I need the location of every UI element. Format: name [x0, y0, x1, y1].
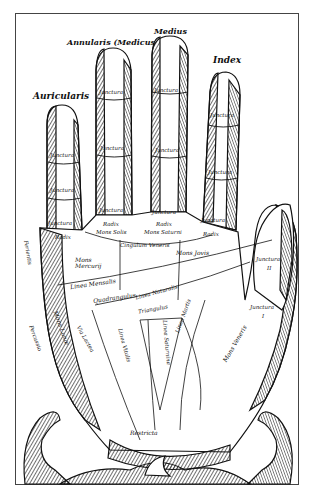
joint-index-1: Junctura	[201, 218, 225, 224]
finger-index	[203, 72, 240, 230]
joint-index-3: Junctura	[210, 113, 234, 119]
radix-middle: Radix	[156, 222, 172, 228]
joint-ring-3: Junctura	[99, 90, 123, 96]
joint-thumb-2-num: II	[267, 266, 271, 272]
radix-little: Radix	[55, 235, 71, 241]
label-restricta: Restricta	[130, 430, 158, 436]
finger-little	[47, 105, 82, 230]
joint-thumb-1-num: I	[262, 314, 264, 320]
label-mons-saturni: Mons Saturni	[144, 230, 182, 236]
finger-middle	[151, 36, 188, 212]
joint-ring-1: Junctura	[99, 208, 123, 214]
joint-thumb-1: Junctura	[250, 305, 274, 311]
label-mons-jovis: Mons Jovis	[176, 250, 209, 256]
radix-ring: Radix	[103, 222, 119, 228]
label-medius: Medius	[154, 27, 187, 35]
label-annularis: Annularis (Medicus	[67, 38, 155, 46]
radix-index: Radix	[203, 232, 219, 238]
joint-little-3: Junctura	[50, 153, 74, 159]
joint-middle-2: Junctura	[155, 148, 179, 154]
finger-ring	[96, 48, 132, 215]
label-auricularis: Auricularis	[33, 92, 89, 101]
hand-engraving	[0, 0, 314, 499]
label-mons-solis: Mons Solis	[96, 230, 126, 236]
label-index: Index	[213, 56, 241, 65]
joint-middle-1: Junctura	[152, 210, 176, 216]
joint-middle-3: Junctura	[154, 88, 178, 94]
joint-ring-2: Junctura	[100, 146, 124, 152]
label-cingulum-veneris: Cingulum Veneris	[120, 243, 170, 249]
joint-little-2: Junctura	[50, 188, 74, 194]
joint-thumb-2: Junctura	[256, 257, 280, 263]
joint-little-1: Junctura	[48, 221, 72, 227]
joint-index-2: Junctura	[208, 170, 232, 176]
label-mons-mercurii: Mons Mercurij	[75, 257, 111, 269]
